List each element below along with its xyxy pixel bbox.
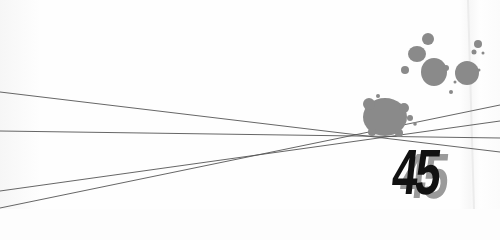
splatter-cluster: [401, 33, 485, 94]
page-number-text: 45: [390, 140, 442, 204]
page-number: 45 45: [396, 140, 500, 206]
splatter-large: [363, 94, 417, 137]
ink-splatters: [363, 33, 485, 137]
